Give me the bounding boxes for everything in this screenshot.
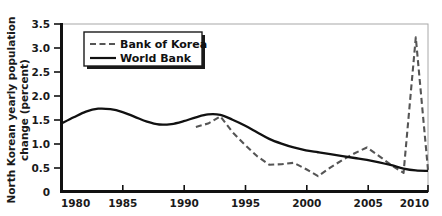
y-axis-title-line2: change (percent) bbox=[18, 59, 30, 161]
x-tick-label: 1985 bbox=[108, 197, 137, 209]
y-axis-title: North Korean yearly population change (p… bbox=[5, 16, 30, 203]
x-tick-label: 2000 bbox=[292, 197, 321, 209]
y-tick-label: 1.0 bbox=[31, 138, 50, 150]
x-axis-tick-labels: 1980 1985 1990 1995 2000 2005 2010 bbox=[61, 197, 429, 209]
y-axis-ticks bbox=[54, 24, 61, 168]
y-tick-label: 0.5 bbox=[31, 162, 50, 174]
chart-figure: 3.5 3.0 2.5 2.0 1.5 1.0 0.5 0 bbox=[0, 0, 442, 216]
x-tick-label: 2005 bbox=[354, 197, 383, 209]
y-tick-label: 3.0 bbox=[31, 42, 50, 54]
legend: Bank of Korea World Bank bbox=[84, 32, 207, 69]
y-axis-tick-labels: 3.5 3.0 2.5 2.0 1.5 1.0 0.5 0 bbox=[31, 18, 50, 198]
y-axis: 3.5 3.0 2.5 2.0 1.5 1.0 0.5 0 bbox=[31, 18, 61, 198]
x-tick-label: 1980 bbox=[61, 197, 90, 209]
y-tick-label: 3.5 bbox=[31, 18, 50, 30]
y-tick-label: 1.5 bbox=[31, 114, 50, 126]
y-tick-label: 2.5 bbox=[31, 66, 50, 78]
x-tick-label: 1990 bbox=[170, 197, 199, 209]
legend-label: Bank of Korea bbox=[120, 38, 207, 51]
y-tick-label: 0 bbox=[43, 186, 50, 198]
x-tick-label: 1995 bbox=[231, 197, 260, 209]
legend-label: World Bank bbox=[120, 52, 192, 65]
y-axis-title-line1: North Korean yearly population bbox=[5, 16, 17, 203]
x-tick-label: 2010 bbox=[400, 197, 429, 209]
y-tick-label: 2.0 bbox=[31, 90, 50, 102]
line-chart: 3.5 3.0 2.5 2.0 1.5 1.0 0.5 0 bbox=[0, 0, 442, 216]
